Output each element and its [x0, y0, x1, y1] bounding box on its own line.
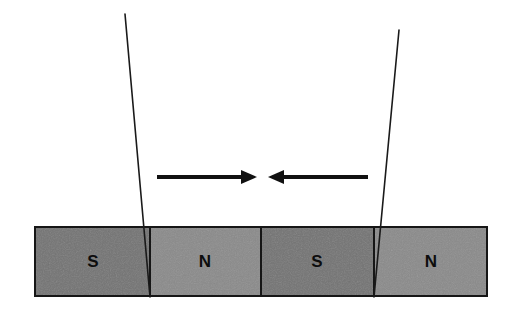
segment-label-3: N	[425, 252, 437, 271]
segment-label-0: S	[87, 252, 98, 271]
magnetic-domain-diagram: SNSN	[0, 0, 519, 317]
diagram-canvas: SNSN	[0, 0, 519, 317]
segment-label-1: N	[199, 252, 211, 271]
right-arrow-pointing-left-shaft	[284, 175, 368, 179]
segment-label-2: S	[311, 252, 322, 271]
left-arrow-pointing-right-shaft	[157, 175, 241, 179]
